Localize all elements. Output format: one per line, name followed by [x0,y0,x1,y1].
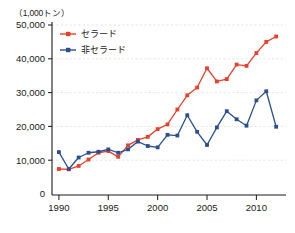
x-tick-label: 1995 [98,202,119,213]
data-point-marker [106,147,110,151]
y-tick-label: 20,000 [16,121,45,132]
data-point-marker [146,144,150,148]
data-point-marker [245,64,249,68]
data-point-marker [116,151,120,155]
data-point-marker [166,122,170,126]
data-point-marker [225,77,229,81]
data-point-marker [264,40,268,44]
legend-label-0: セラード [81,29,117,39]
data-point-marker [77,164,81,168]
data-point-marker [126,143,130,147]
data-point-marker [215,80,219,84]
x-axis-tick-labels: 19901995200020052010 [48,202,267,213]
y-tick-label: 50,000 [16,19,45,30]
data-point-marker [185,113,189,117]
data-point-marker [116,155,120,159]
x-tick-label: 1990 [48,202,69,213]
legend-label-1: 非セラード [81,44,126,55]
y-axis-tick-labels: 010,00020,00030,00040,00050,000 [16,19,45,199]
data-point-marker [136,140,140,144]
data-point-marker [254,98,258,102]
x-tick-label: 2005 [196,202,217,213]
data-point-marker [57,167,61,171]
data-point-marker [205,143,209,147]
data-point-marker [57,150,61,154]
data-point-marker [274,125,278,129]
data-point-marker [97,150,101,154]
data-point-marker [156,127,160,131]
data-point-marker [175,134,179,138]
y-tick-label: 30,000 [16,87,45,98]
x-tick-label: 2000 [147,202,168,213]
y-tick-label: 40,000 [16,53,45,64]
data-point-marker [215,126,219,130]
data-point-marker [87,151,91,155]
data-point-marker [235,117,239,121]
data-point-marker [175,108,179,112]
data-point-marker [146,135,150,139]
chart-container: （1,000トン） 010,00020,00030,00040,00050,00… [0,0,295,233]
y-tick-label: 0 [40,188,45,199]
data-point-marker [87,158,91,162]
data-point-marker [166,133,170,137]
data-point-marker [274,35,278,39]
series-line-0 [59,36,276,169]
data-point-marker [67,167,71,171]
data-point-marker [195,86,199,90]
data-point-marker [195,130,199,134]
data-point-marker [245,124,249,128]
line-chart-plot: 010,00020,00030,00040,00050,000 19901995… [0,0,295,233]
data-point-marker [156,145,160,149]
x-tick-label: 2010 [246,202,267,213]
y-tick-label: 10,000 [16,155,45,166]
data-point-marker [264,89,268,93]
data-point-marker [235,63,239,67]
data-series [57,35,278,172]
chart-legend: セラード非セラード [60,29,126,55]
data-point-marker [254,51,258,55]
data-point-marker [205,66,209,70]
data-point-marker [77,156,81,160]
legend-marker-swatch-1 [66,48,70,52]
data-point-marker [225,109,229,113]
legend-marker-swatch-0 [66,32,70,36]
data-point-marker [185,93,189,97]
data-point-marker [126,147,130,151]
